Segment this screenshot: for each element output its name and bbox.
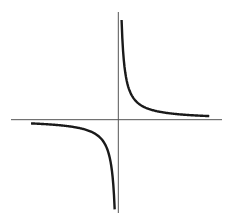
series-layer xyxy=(31,20,209,209)
curve-right-branch xyxy=(122,20,210,116)
curve-left-branch xyxy=(31,123,115,209)
hyperbola-chart xyxy=(0,0,233,221)
